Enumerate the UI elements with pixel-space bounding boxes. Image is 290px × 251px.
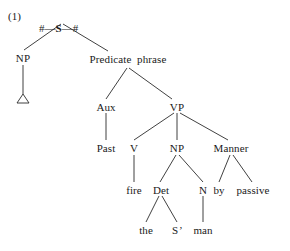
node-np-subject: NP xyxy=(16,52,30,64)
node-aux: Aux xyxy=(96,101,115,113)
root-node: #—S—# xyxy=(28,10,78,46)
triangle-icon xyxy=(17,94,29,103)
node-s-prime: S’ xyxy=(172,224,182,236)
node-man: man xyxy=(193,224,212,236)
node-past: Past xyxy=(97,142,116,154)
node-fire: fire xyxy=(126,184,142,196)
node-v: V xyxy=(130,142,138,154)
edge-det-to-the xyxy=(146,196,159,222)
edge-np-to-det xyxy=(160,155,176,182)
edge-pp-to-vp xyxy=(129,68,172,99)
node-vp: VP xyxy=(170,101,184,113)
root-right-boundary: # xyxy=(73,22,79,34)
edge-manner-to-by xyxy=(219,155,230,182)
example-number: (1) xyxy=(8,10,21,22)
node-np-object: NP xyxy=(170,142,184,154)
figure-canvas: (1) #—S—# NP Predicate phrase Aux VP Pas… xyxy=(0,0,290,251)
edge-vp-to-manner xyxy=(180,113,228,140)
node-n: N xyxy=(199,184,207,196)
root-dash-right: — xyxy=(62,22,73,34)
node-det: Det xyxy=(153,184,169,196)
node-manner: Manner xyxy=(214,142,249,154)
edge-det-to-sprime xyxy=(162,196,177,222)
node-predicate-phrase: Predicate phrase xyxy=(90,53,167,65)
node-s-prime-mark: ’ xyxy=(178,224,182,236)
edge-vp-to-v xyxy=(134,113,174,140)
root-dash-left: — xyxy=(45,22,56,34)
node-by: by xyxy=(213,184,224,196)
edge-manner-to-passive xyxy=(233,155,252,182)
edge-np-to-n xyxy=(179,155,203,182)
edge-pp-to-aux xyxy=(106,68,127,99)
node-passive: passive xyxy=(236,184,269,196)
node-the: the xyxy=(139,224,153,236)
example-number-text: (1) xyxy=(8,10,21,22)
